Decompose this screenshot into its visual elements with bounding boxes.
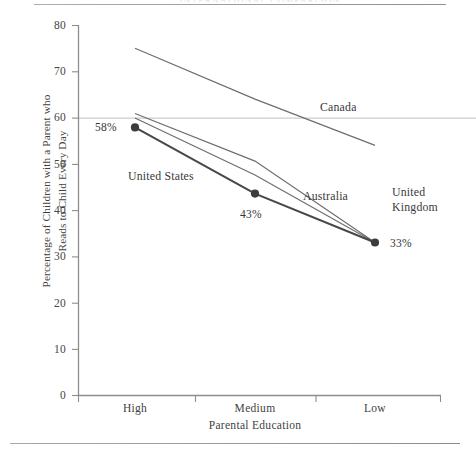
y-axis-title-line-1: Percentage of Children with a Parent who bbox=[38, 51, 54, 331]
data-point-us-medium bbox=[251, 190, 259, 198]
y-tick-label-80: 80 bbox=[42, 19, 66, 31]
x-tick-label-low: Low bbox=[345, 402, 405, 414]
value-label-us-medium: 43% bbox=[240, 208, 262, 220]
y-tick-label-0: 0 bbox=[42, 389, 66, 401]
x-axis-title: Parental Education bbox=[160, 419, 350, 431]
series-line-united-states bbox=[135, 127, 375, 242]
data-point-us-low bbox=[371, 238, 379, 246]
x-tick-label-high: High bbox=[105, 402, 165, 414]
value-label-us-low: 33% bbox=[390, 237, 412, 249]
y-tick-label-10: 10 bbox=[42, 343, 66, 355]
x-tick-label-medium: Medium bbox=[222, 402, 288, 414]
series-label-uk-line-1: United bbox=[392, 185, 438, 200]
figure-container: INTERNATIONAL COMPARISON bbox=[0, 0, 476, 456]
series-label-canada: Canada bbox=[320, 100, 357, 115]
chart-plot-area bbox=[0, 0, 476, 456]
y-axis-title-line-2: Reads to Child Every Day bbox=[54, 51, 70, 331]
series-label-australia: Australia bbox=[303, 189, 348, 204]
bottom-divider-rule bbox=[10, 443, 460, 444]
series-label-united-kingdom: United Kingdom bbox=[392, 185, 438, 215]
data-point-us-high bbox=[131, 123, 139, 131]
series-label-united-states: United States bbox=[128, 169, 194, 184]
y-axis-title: Percentage of Children with a Parent who… bbox=[38, 51, 70, 331]
y-axis-ticks bbox=[72, 26, 78, 396]
value-label-us-high: 58% bbox=[95, 121, 117, 133]
series-label-uk-line-2: Kingdom bbox=[392, 200, 438, 215]
series-line-canada bbox=[135, 48, 375, 145]
